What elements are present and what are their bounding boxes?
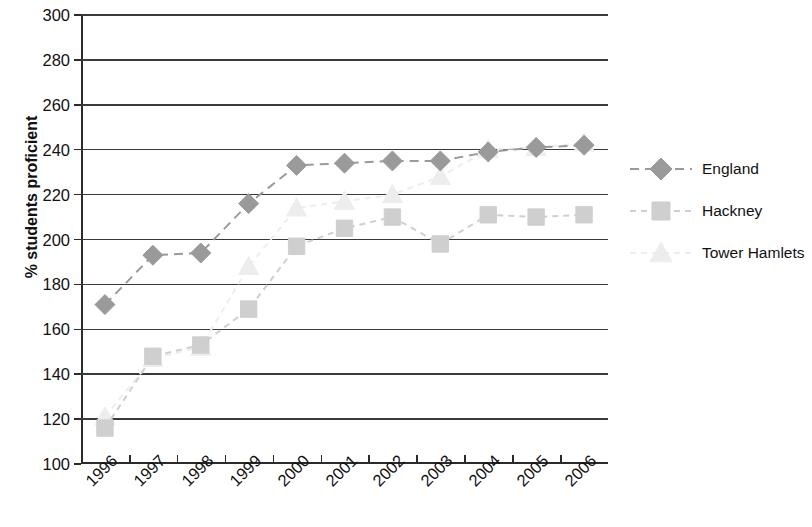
data-point-marker <box>145 348 161 364</box>
legend-marker-icon <box>628 194 694 228</box>
legend-label: Tower Hamlets <box>702 244 805 262</box>
data-point-marker <box>143 245 163 265</box>
y-tick-label: 160 <box>42 320 70 339</box>
data-point-marker <box>574 135 594 155</box>
data-point-marker <box>478 142 498 162</box>
data-point-marker <box>288 238 304 254</box>
plot-area: 100120140160180200220240260280300 199619… <box>81 15 608 464</box>
y-tick-mark <box>74 239 81 241</box>
legend-item[interactable]: Hackney <box>628 194 812 236</box>
y-tick-mark <box>74 463 81 465</box>
data-point-marker <box>382 151 402 171</box>
y-tick-mark <box>74 59 81 61</box>
y-tick-mark <box>74 194 81 196</box>
data-point-marker <box>287 155 307 175</box>
series-tower-hamlets <box>95 133 594 425</box>
chart-figure: % students proficient 100120140160180200… <box>0 0 812 527</box>
data-point-marker <box>239 256 259 274</box>
data-point-marker <box>528 209 544 225</box>
series-line <box>105 215 584 428</box>
data-point-marker <box>240 301 256 317</box>
y-tick-mark <box>74 418 81 420</box>
legend-marker-icon <box>628 236 694 270</box>
series-overlay <box>81 15 608 464</box>
y-tick-label: 240 <box>42 140 70 159</box>
y-axis-title: % students proficient <box>23 77 41 317</box>
chart-legend: EnglandHackneyTower Hamlets <box>628 152 812 278</box>
legend-item[interactable]: Tower Hamlets <box>628 236 812 278</box>
y-tick-label: 200 <box>42 230 70 249</box>
data-point-marker <box>432 236 448 252</box>
y-tick-mark <box>74 373 81 375</box>
data-point-marker <box>335 191 355 209</box>
y-tick-label: 280 <box>42 50 70 69</box>
y-tick-label: 300 <box>42 6 70 25</box>
y-tick-mark <box>74 329 81 331</box>
data-point-marker <box>335 153 355 173</box>
series-hackney <box>97 207 592 437</box>
y-tick-mark <box>74 104 81 106</box>
data-point-marker <box>480 207 496 223</box>
y-tick-label: 120 <box>42 410 70 429</box>
data-point-marker <box>336 220 352 236</box>
data-point-marker <box>193 337 209 353</box>
data-point-marker <box>384 209 400 225</box>
y-tick-mark <box>74 149 81 151</box>
legend-marker-icon <box>628 152 694 186</box>
y-tick-mark <box>74 14 81 16</box>
legend-label: Hackney <box>702 202 762 220</box>
y-tick-label: 100 <box>42 455 70 474</box>
data-point-marker <box>576 207 592 223</box>
legend-label: England <box>702 160 759 178</box>
y-tick-label: 140 <box>42 365 70 384</box>
y-tick-label: 180 <box>42 275 70 294</box>
y-tick-label: 260 <box>42 95 70 114</box>
y-tick-mark <box>74 284 81 286</box>
legend-item[interactable]: England <box>628 152 812 194</box>
data-point-marker <box>382 185 402 203</box>
series-line <box>105 143 584 417</box>
data-point-marker <box>97 420 113 436</box>
data-point-marker <box>430 151 450 171</box>
data-point-marker <box>239 194 259 214</box>
y-tick-label: 220 <box>42 185 70 204</box>
data-point-marker <box>95 295 115 315</box>
